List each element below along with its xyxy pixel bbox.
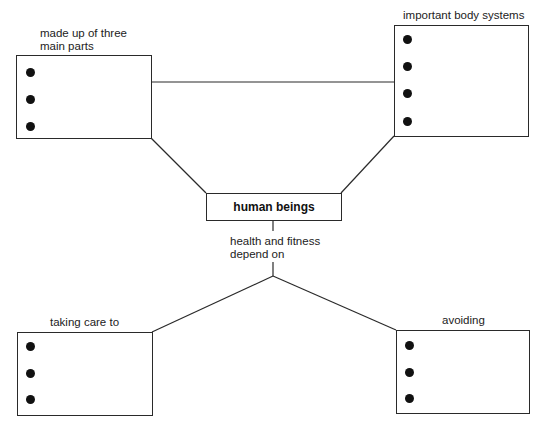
line-topleft-center xyxy=(151,138,206,193)
line-junction-bottomleft xyxy=(152,276,273,332)
bullet-icon xyxy=(26,68,35,77)
node-box-bottom-right[interactable] xyxy=(396,330,530,414)
connector-label: health and fitness depend on xyxy=(230,235,320,261)
line-topright-center xyxy=(341,136,394,193)
center-node-label: human beings xyxy=(207,200,341,214)
bullet-icon xyxy=(26,122,35,131)
center-node-box[interactable]: human beings xyxy=(206,193,342,221)
node-box-top-left[interactable] xyxy=(16,55,152,139)
bullet-icon xyxy=(26,342,35,351)
bullet-icon xyxy=(405,368,414,377)
label-line: avoiding xyxy=(442,314,485,327)
node-label-bottom-left: taking care to xyxy=(50,316,119,329)
label-line: health and fitness xyxy=(230,235,320,248)
line-junction-bottomright xyxy=(273,276,396,330)
bullet-icon xyxy=(403,117,412,126)
node-box-top-right[interactable] xyxy=(394,25,529,137)
bullet-icon xyxy=(26,369,35,378)
node-label-bottom-right: avoiding xyxy=(442,314,485,327)
label-line: depend on xyxy=(230,248,320,261)
label-line: important body systems xyxy=(403,9,524,22)
bullet-icon xyxy=(26,395,35,404)
node-label-top-left: made up of three main parts xyxy=(40,27,127,53)
label-line: taking care to xyxy=(50,316,119,329)
node-label-top-right: important body systems xyxy=(403,9,524,22)
label-line: made up of three xyxy=(40,27,127,40)
bullet-icon xyxy=(405,341,414,350)
label-line: main parts xyxy=(40,40,127,53)
bullet-icon xyxy=(403,62,412,71)
bullet-icon xyxy=(405,394,414,403)
bullet-icon xyxy=(26,95,35,104)
node-box-bottom-left[interactable] xyxy=(17,332,153,416)
bullet-icon xyxy=(403,89,412,98)
bullet-icon xyxy=(403,35,412,44)
